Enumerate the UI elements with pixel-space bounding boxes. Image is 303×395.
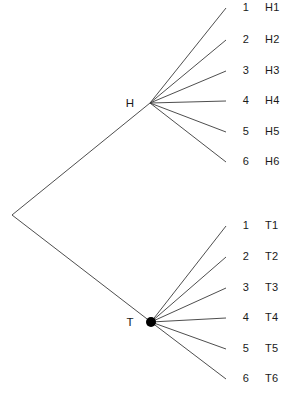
tree-node-markers — [146, 317, 156, 327]
outcome-index-t1: 1 — [237, 220, 249, 231]
outcome-label-h1: H1 — [265, 2, 291, 13]
tails-branch-6-line — [151, 322, 226, 379]
heads-branch-3-line — [150, 71, 226, 103]
outcome-label-t4: T4 — [265, 312, 291, 323]
outcome-index-h4: 4 — [237, 95, 249, 106]
heads-branch-1-line — [150, 8, 226, 103]
outcome-index-t2: 2 — [237, 251, 249, 262]
outcome-index-t4: 4 — [237, 312, 249, 323]
tails-node-dot — [146, 317, 156, 327]
outcome-index-h3: 3 — [237, 65, 249, 76]
tails-branch-3-line — [151, 288, 226, 322]
outcome-label-h6: H6 — [265, 156, 291, 167]
outcome-label-t1: T1 — [265, 220, 291, 231]
outcome-label-t2: T2 — [265, 251, 291, 262]
outcome-index-t5: 5 — [237, 343, 249, 354]
root-to-tails-line — [12, 215, 151, 322]
probability-tree-canvas — [0, 0, 303, 395]
root-to-heads-line — [12, 103, 150, 215]
heads-branch-2-line — [150, 40, 226, 103]
outcome-index-h5: 5 — [237, 126, 249, 137]
outcome-index-t6: 6 — [237, 373, 249, 384]
outcome-label-t6: T6 — [265, 373, 291, 384]
outcome-label-h4: H4 — [265, 95, 291, 106]
tails-branch-2-line — [151, 257, 226, 322]
heads-branch-5-line — [150, 103, 226, 132]
heads-branch-4-line — [150, 101, 226, 103]
outcome-label-h2: H2 — [265, 34, 291, 45]
outcome-index-h6: 6 — [237, 156, 249, 167]
outcome-index-h2: 2 — [237, 34, 249, 45]
node-label-heads: H — [123, 98, 137, 109]
tree-branch-lines — [12, 8, 226, 379]
node-label-tails: T — [123, 317, 137, 328]
tails-branch-5-line — [151, 322, 226, 349]
outcome-label-t5: T5 — [265, 343, 291, 354]
outcome-label-h3: H3 — [265, 65, 291, 76]
outcome-label-h5: H5 — [265, 126, 291, 137]
tails-branch-4-line — [151, 318, 226, 322]
tails-branch-1-line — [151, 226, 226, 322]
heads-branch-6-line — [150, 103, 226, 162]
outcome-index-t3: 3 — [237, 282, 249, 293]
outcome-label-t3: T3 — [265, 282, 291, 293]
outcome-index-h1: 1 — [237, 2, 249, 13]
